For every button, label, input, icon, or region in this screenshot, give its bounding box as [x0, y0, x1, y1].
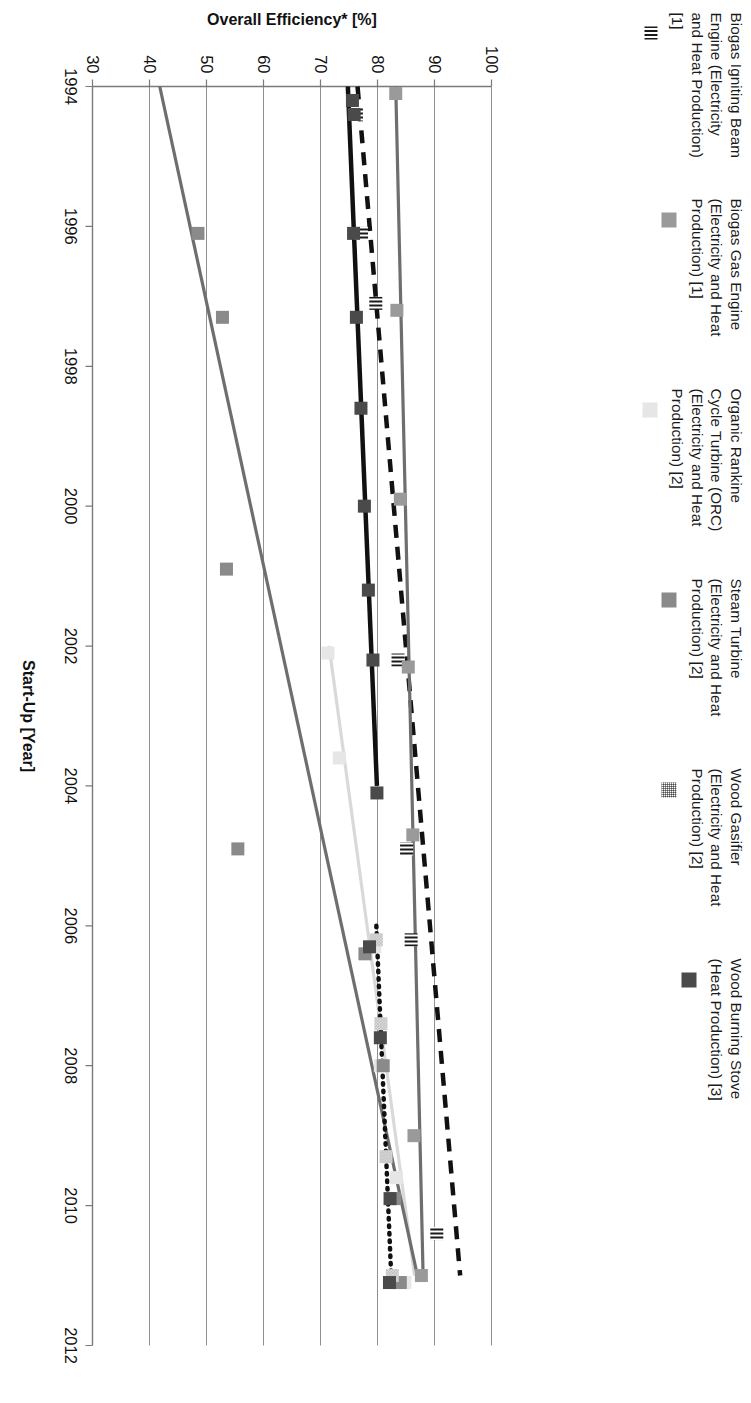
trendline	[347, 86, 376, 785]
data-point	[321, 646, 334, 659]
legend-swatch-square-icon	[662, 212, 677, 227]
data-point	[191, 226, 204, 239]
legend-item-organic-rankine-cycle-turbine[interactable]: Organic Rankine Cycle Turbine (ORC) (Ele…	[642, 388, 745, 560]
legend-item-wood-burning-stove[interactable]: Wood Burning Stove (Heat Production) [3]	[681, 958, 745, 1130]
data-point	[231, 842, 244, 855]
data-point	[414, 1269, 427, 1282]
legend-label: Wood Burning Stove (Heat Production) [3]	[706, 958, 745, 1100]
x-tick-label: 1994	[61, 68, 79, 105]
legend-swatch-square-icon	[662, 592, 677, 607]
trendline	[159, 86, 417, 1275]
y-tick-label: 100	[482, 45, 500, 73]
axes	[85, 79, 491, 1345]
data-point	[347, 107, 360, 120]
x-tick-label: 2004	[61, 767, 79, 804]
x-tick-label: 2002	[61, 627, 79, 664]
legend-item-biogas-gas-engine[interactable]: Biogas Gas Engine (Electricity and Heat …	[662, 198, 746, 370]
data-point	[361, 583, 374, 596]
data-point	[345, 93, 358, 106]
trendlines	[159, 86, 459, 1275]
trendline	[395, 86, 422, 1275]
data-point	[404, 933, 417, 946]
legend-swatch-hatch-icon	[662, 782, 677, 797]
rotated-figure: Biogas Igniting Beam Engine (Electricity…	[0, 0, 751, 1403]
data-point	[363, 940, 376, 953]
data-point	[430, 1227, 443, 1240]
x-tick-label: 1996	[61, 208, 79, 245]
x-tick-label: 2012	[61, 1327, 79, 1364]
data-point	[215, 310, 228, 323]
data-point	[407, 1129, 420, 1142]
data-point	[347, 226, 360, 239]
legend-label: Biogas Igniting Beam Engine (Electricity…	[667, 12, 745, 158]
data-point	[354, 401, 367, 414]
legend-swatch-stripe-icon	[644, 26, 657, 39]
legend-item-biogas-igniting-beam-engine[interactable]: Biogas Igniting Beam Engine (Electricity…	[644, 12, 745, 184]
data-point	[379, 1150, 392, 1163]
x-tick-label: 2000	[61, 487, 79, 524]
y-axis-title: Overall Efficiency* [%]	[207, 10, 377, 27]
data-point	[406, 828, 419, 841]
x-tick-label: 2010	[61, 1187, 79, 1224]
y-tick-label: 90	[425, 55, 443, 73]
data-point	[374, 1017, 387, 1030]
x-axis-title: Start-Up [Year]	[19, 659, 36, 771]
legend-swatch-square-icon	[681, 972, 696, 987]
legend-label: Biogas Gas Engine (Electricity and Heat …	[687, 198, 746, 336]
y-tick-label: 40	[140, 55, 158, 73]
y-tick-label: 30	[83, 55, 101, 73]
x-tick-label: 1998	[61, 347, 79, 384]
data-point	[400, 842, 413, 855]
data-point	[219, 562, 232, 575]
legend-label: Steam Turbine (Electricity and Heat Prod…	[687, 578, 746, 716]
data-point	[401, 660, 414, 673]
data-point	[369, 296, 382, 309]
data-point	[390, 303, 403, 316]
y-tick-label: 50	[197, 55, 215, 73]
legend-label: Organic Rankine Cycle Turbine (ORC) (Ele…	[667, 388, 745, 531]
legend-item-steam-turbine[interactable]: Steam Turbine (Electricity and Heat Prod…	[662, 578, 746, 750]
legend-label: Wood Gasifier (Electricity and Heat Prod…	[687, 768, 746, 906]
data-point	[373, 1031, 386, 1044]
y-tick-label: 80	[368, 55, 386, 73]
data-point	[349, 310, 362, 323]
y-tick-label: 70	[311, 55, 329, 73]
scatter-plot-svg: 1994199619982000200220042006200820102012…	[0, 0, 501, 1403]
data-points	[191, 86, 443, 1288]
chart-legend: Biogas Igniting Beam Engine (Electricity…	[501, 0, 751, 1403]
data-point	[366, 653, 379, 666]
data-point	[389, 86, 402, 99]
data-point	[332, 751, 345, 764]
data-point	[383, 1192, 396, 1205]
x-tick-label: 2006	[61, 907, 79, 944]
legend-item-wood-gasifier[interactable]: Wood Gasifier (Electricity and Heat Prod…	[662, 768, 746, 940]
data-point	[393, 492, 406, 505]
plot-area: 1994199619982000200220042006200820102012…	[0, 0, 501, 1403]
x-tick-label: 2008	[61, 1047, 79, 1084]
data-point	[370, 786, 383, 799]
data-point	[389, 1171, 402, 1184]
legend-swatch-square-icon	[642, 402, 657, 417]
y-tick-label: 60	[254, 55, 272, 73]
data-point	[357, 499, 370, 512]
data-point	[376, 1059, 389, 1072]
data-point	[382, 1276, 395, 1289]
